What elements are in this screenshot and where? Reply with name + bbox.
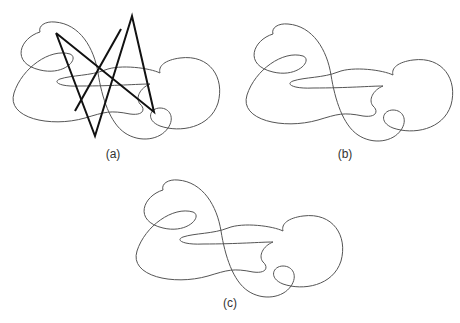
panel-a-polygon-segment — [75, 29, 121, 111]
panel-c — [136, 180, 343, 297]
panel-b-label: (b) — [338, 147, 353, 161]
figure-canvas — [0, 0, 460, 323]
panel-a-label: (a) — [106, 147, 121, 161]
panel-b — [246, 24, 453, 141]
panel-a — [13, 16, 220, 139]
panel-a-polygon — [56, 16, 154, 136]
panel-c-label: (c) — [223, 296, 237, 310]
